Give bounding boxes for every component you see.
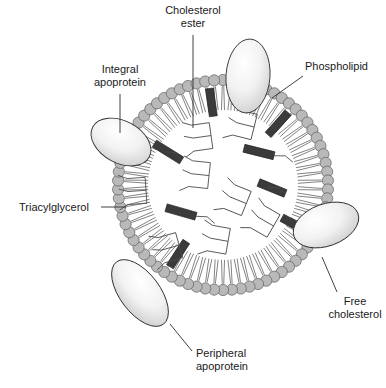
label-line-2: ester — [181, 17, 206, 29]
phospholipid-head — [208, 75, 219, 86]
label-line-1: Integral — [102, 63, 139, 75]
label-triacylglycerol: Triacylglycerol — [19, 201, 89, 213]
lipoprotein-diagram: CholesterolesterIntegralapoproteinPhosph… — [0, 0, 386, 388]
label-peripheral-apoprotein: Peripheralapoprotein — [196, 347, 248, 372]
label-line-1: Phospholipid — [305, 60, 368, 72]
label-integral-apoprotein: Integralapoprotein — [94, 63, 146, 88]
label-line-2: apoprotein — [196, 360, 248, 372]
label-line-1: Peripheral — [196, 347, 246, 359]
diagram-canvas: CholesterolesterIntegralapoproteinPhosph… — [0, 0, 386, 388]
label-phospholipid: Phospholipid — [305, 60, 368, 72]
label-line-2: apoprotein — [94, 76, 146, 88]
label-line-2: cholesterol — [328, 308, 381, 320]
label-line-1: Triacylglycerol — [19, 201, 89, 213]
label-line-1: Cholesterol — [165, 4, 221, 16]
label-line-1: Free — [344, 295, 367, 307]
